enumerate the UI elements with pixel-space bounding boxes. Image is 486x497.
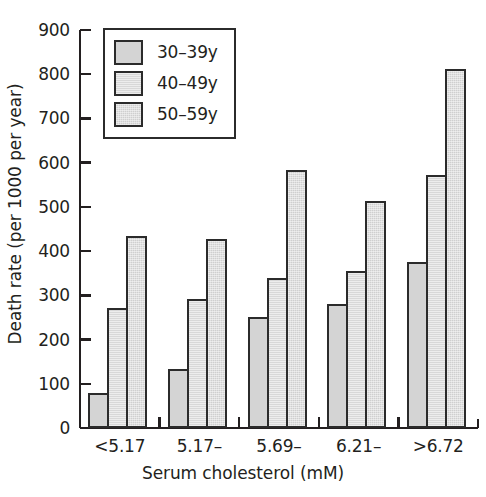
bar (346, 271, 367, 428)
bar (107, 308, 128, 428)
bar-group (248, 30, 311, 428)
bar (187, 299, 208, 428)
legend-item-label: 50–59y (157, 106, 218, 123)
legend-swatch-icon (114, 40, 143, 65)
legend-item: 40–49y (114, 68, 218, 99)
x-axis-tick-label: 5.69– (239, 436, 319, 456)
bar-chart: Death rate (per 1000 per year) 010020030… (0, 0, 486, 497)
bar-group (407, 30, 470, 428)
legend-item: 30–39y (114, 37, 218, 68)
legend-swatch-icon (114, 102, 143, 127)
x-axis-tick-label: >6.72 (398, 436, 478, 456)
bar (168, 369, 189, 428)
x-axis-tick-label: 6.21– (319, 436, 399, 456)
bar (248, 317, 269, 428)
bar (426, 175, 447, 428)
bar (445, 69, 466, 428)
bar (407, 262, 428, 428)
legend-item-label: 40–49y (157, 75, 218, 92)
bar (88, 393, 109, 428)
legend-item-label: 30–39y (157, 44, 218, 61)
x-axis-title: Serum cholesterol (mM) (0, 462, 486, 484)
legend-swatch-icon (114, 71, 143, 96)
bar (286, 170, 307, 428)
x-axis-tick-label: 5.17– (160, 436, 240, 456)
bar (126, 236, 147, 428)
x-axis-tick-label: <5.17 (80, 436, 160, 456)
bar (327, 304, 348, 428)
legend: 30–39y40–49y50–59y (103, 28, 236, 139)
legend-item: 50–59y (114, 99, 218, 130)
bar-group (327, 30, 390, 428)
x-axis-tick-labels: <5.175.17–5.69–6.21–>6.72 (80, 436, 478, 460)
bar (267, 278, 288, 428)
bar (365, 201, 386, 428)
bar (206, 239, 227, 428)
